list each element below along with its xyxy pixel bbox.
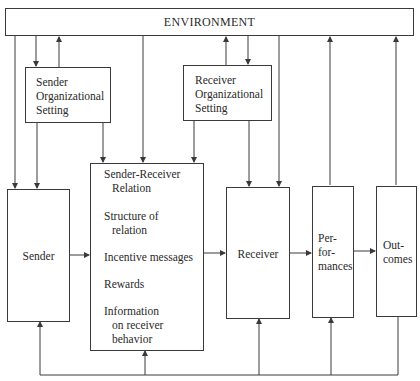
outcomes-box: Out- comes bbox=[376, 186, 417, 317]
sender-box: Sender bbox=[7, 189, 70, 322]
receiver-org-line-2: Organizational bbox=[195, 87, 263, 101]
performances-line-1: Per- bbox=[318, 231, 337, 245]
sender-receiver-relation-box: Sender-Receiver Relation Structure of re… bbox=[90, 163, 204, 351]
relation-item-rewards: Rewards bbox=[104, 277, 144, 291]
environment-box: ENVIRONMENT bbox=[5, 8, 414, 36]
sender-org-line-3: Setting bbox=[36, 103, 69, 117]
performances-line-2: for- bbox=[318, 245, 335, 259]
receiver-org-line-1: Receiver bbox=[195, 73, 236, 87]
sender-org-setting-box: Sender Organizational Setting bbox=[25, 67, 111, 123]
sender-org-line-1: Sender bbox=[36, 75, 68, 89]
relation-item-incentive-messages: Incentive messages bbox=[104, 250, 193, 264]
outcomes-line-1: Out- bbox=[383, 238, 404, 252]
relation-item-information-line-2: on receiver bbox=[112, 318, 163, 332]
relation-item-information-line-3: behavior bbox=[112, 332, 152, 346]
environment-label: ENVIRONMENT bbox=[6, 15, 413, 29]
performances-line-3: mances bbox=[318, 259, 352, 273]
performances-box: Per- for- mances bbox=[312, 186, 354, 318]
relation-item-structure-line-1: Structure of bbox=[104, 209, 159, 223]
sender-org-line-2: Organizational bbox=[36, 89, 104, 103]
receiver-org-line-3: Setting bbox=[195, 101, 228, 115]
relation-item-structure-line-2: relation bbox=[112, 223, 147, 237]
relation-title-line-1: Sender-Receiver bbox=[104, 167, 180, 181]
receiver-box: Receiver bbox=[226, 187, 290, 319]
relation-item-information-line-1: Information bbox=[104, 304, 159, 318]
sender-label: Sender bbox=[8, 249, 69, 263]
receiver-org-setting-box: Receiver Organizational Setting bbox=[183, 65, 272, 121]
relation-title-line-2: Relation bbox=[112, 181, 151, 195]
outcomes-line-2: comes bbox=[383, 252, 412, 266]
receiver-label: Receiver bbox=[227, 247, 289, 261]
